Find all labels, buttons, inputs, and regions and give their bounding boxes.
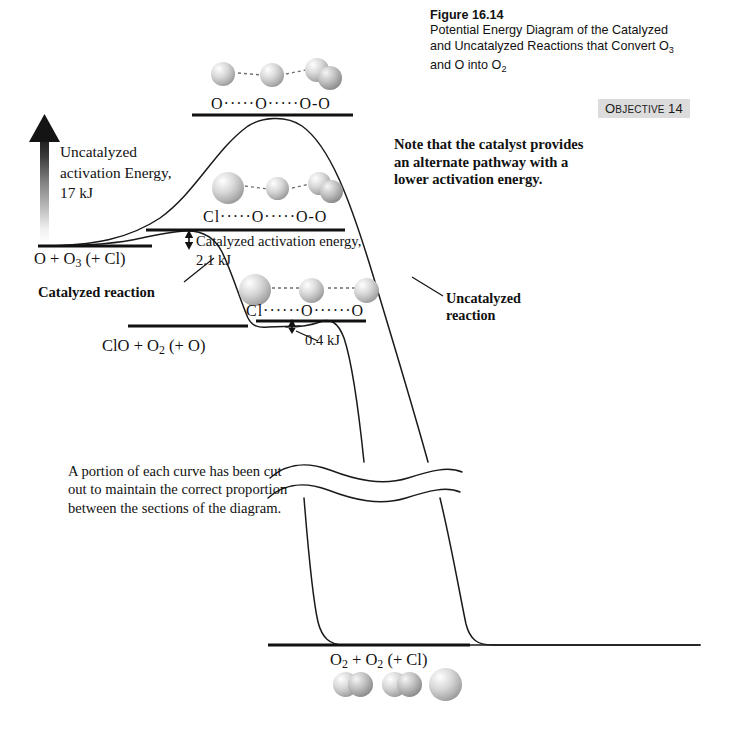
sphere-oxygen-e [266,177,289,200]
label-clo-tail: (+ O) [165,336,205,355]
cut-out-note: A portion of each curve has been cut out… [68,462,294,517]
sphere-product-chlorine [429,668,462,701]
sphere-product-o2b-right [397,672,422,697]
sphere-oxygen-d [318,66,342,90]
formula-intermediate: Cl······O······O [246,302,364,320]
sphere-oxygen-g [320,180,343,203]
catalyzed-reaction-label: Catalyzed reaction [38,284,155,301]
formula-catalyzed-transition-state: Cl·····O·····O-O [203,208,327,226]
label-reactants-tail: (+ Cl) [81,249,125,268]
catalyzed-activation-arrow [185,230,193,250]
delta-energy-label: 0.4 kJ [305,332,340,349]
catalyzed-curve-step2-lower [304,498,700,645]
energy-diagram-svg [0,0,738,742]
label-products-mid: + O [348,650,377,669]
sphere-oxygen-h [299,278,324,303]
label-products-first: O [330,650,342,669]
uncatalyzed-activation-energy-label: Uncatalyzed activation Energy, 17 kJ [60,142,180,204]
sphere-chlorine-a [212,172,244,204]
figure-canvas: Figure 16.14 Potential Energy Diagram of… [0,0,738,742]
sphere-oxygen-a [211,62,235,86]
catalyzed-activation-energy-label: Catalyzed activation energy, 2.1 kJ [196,232,371,270]
sphere-product-o2a-right [348,672,373,697]
label-reactants-main: O + O [34,249,75,268]
formula-uncatalyzed-transition-state: O·····O·····O-O [211,95,331,113]
catalyst-note: Note that the catalyst provides an alter… [394,136,584,189]
sphere-oxygen-i [354,278,379,303]
break-line-lower [268,485,460,502]
break-line-upper [270,465,462,482]
sphere-oxygen-b [260,63,284,87]
label-products-tail: (+ Cl) [383,650,427,669]
leader-uncatalyzed-reaction [412,277,443,296]
uncatalyzed-curve-lower [440,498,700,645]
label-clo-main: ClO + O [102,336,159,355]
label-clo-intermediate: ClO + O2 (+ O) [102,336,205,358]
label-products: O2 + O2 (+ Cl) [330,650,427,672]
label-reactants: O + O3 (+ Cl) [34,249,125,271]
uncatalyzed-activation-arrow [29,114,60,244]
uncatalyzed-reaction-label: Uncatalyzed reaction [446,290,566,324]
